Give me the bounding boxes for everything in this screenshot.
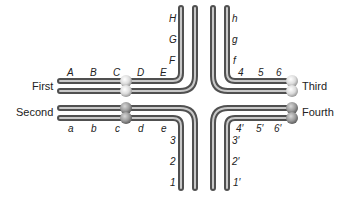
locus-c: c: [115, 124, 120, 134]
locus-6: 6: [276, 68, 282, 78]
locus-3-prime: 3′: [232, 136, 239, 146]
locus-B: B: [90, 68, 97, 78]
locus-4: 4: [238, 68, 244, 78]
locus-a: a: [68, 124, 74, 134]
locus-5: 5: [258, 68, 264, 78]
locus-H: H: [169, 14, 176, 24]
locus-e: e: [161, 124, 167, 134]
centromere-third-b: [286, 85, 298, 97]
locus-F: F: [169, 56, 175, 66]
locus-2-prime: 2′: [232, 157, 239, 167]
locus-5-prime: 5′: [256, 124, 263, 134]
locus-G: G: [169, 35, 177, 45]
label-fourth: Fourth: [302, 107, 334, 118]
centromere-first-b: [120, 85, 132, 97]
locus-g: g: [232, 35, 238, 45]
locus-D: D: [137, 68, 144, 78]
centromere-fourth-b: [286, 112, 298, 124]
locus-d: d: [138, 124, 144, 134]
label-third: Third: [302, 81, 327, 92]
locus-3: 3: [170, 136, 176, 146]
pachytene-cross-diagram: First Second Third Fourth A B C D E H G …: [0, 0, 347, 203]
locus-2: 2: [170, 157, 176, 167]
locus-1-prime: 1′: [233, 178, 240, 188]
chromosome-tubes: [0, 0, 347, 203]
locus-f: f: [233, 56, 236, 66]
chromosome-fourth-bottom-right: [213, 108, 292, 188]
label-second: Second: [16, 107, 53, 118]
locus-C: C: [113, 68, 120, 78]
locus-6-prime: 6′: [274, 124, 281, 134]
locus-E: E: [160, 68, 167, 78]
centromere-second-b: [120, 112, 132, 124]
label-first: First: [32, 81, 53, 92]
locus-h: h: [232, 14, 238, 24]
locus-4-prime: 4′: [236, 124, 243, 134]
chromosome-third-top-right: [213, 8, 292, 91]
locus-1: 1: [170, 178, 176, 188]
locus-A: A: [67, 68, 74, 78]
locus-b: b: [91, 124, 97, 134]
